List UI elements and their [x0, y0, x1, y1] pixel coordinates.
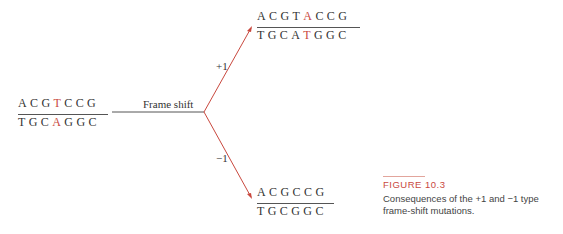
- base: G: [64, 115, 76, 130]
- base: C: [64, 96, 75, 111]
- base: T: [293, 9, 304, 24]
- base: G: [87, 96, 99, 111]
- base: C: [338, 28, 349, 43]
- mutated-base: A: [52, 115, 64, 130]
- base: C: [327, 9, 338, 24]
- base: C: [41, 115, 52, 130]
- base: C: [315, 204, 326, 219]
- figure-title: FIGURE 10.3: [383, 179, 446, 190]
- frame-shift-figure: ACGTCCG TGCAGGC Frame shift +1 −1 ACGTAC…: [0, 0, 563, 234]
- base: G: [280, 185, 292, 200]
- mutated-base: T: [54, 96, 65, 111]
- base: G: [41, 96, 53, 111]
- inserted-base: T: [303, 28, 314, 43]
- base: G: [29, 115, 41, 130]
- base: C: [269, 185, 280, 200]
- base: T: [18, 115, 29, 130]
- base: C: [269, 9, 280, 24]
- base: G: [268, 204, 280, 219]
- plus-one-bottom-strand: TGCATGGC: [257, 28, 350, 43]
- base: C: [293, 185, 304, 200]
- plus-one-top-strand: ACGTACCG: [257, 9, 350, 24]
- minus-one-top-strand: ACGCCG: [257, 185, 327, 200]
- base: T: [257, 28, 268, 43]
- plus-one-arrowhead-icon: [247, 26, 252, 32]
- base: G: [280, 9, 292, 24]
- figure-caption: Consequences of the +1 and −1 type frame…: [383, 193, 543, 217]
- caption-rule: [383, 176, 425, 177]
- base: G: [315, 185, 327, 200]
- base: G: [291, 204, 303, 219]
- original-bottom-strand: TGCAGGC: [18, 115, 100, 130]
- base: A: [18, 96, 30, 111]
- base: C: [88, 115, 99, 130]
- base: A: [291, 28, 303, 43]
- inserted-base: A: [303, 9, 315, 24]
- plus-one-label: +1: [216, 60, 228, 72]
- base: G: [76, 115, 88, 130]
- original-top-strand: ACGTCCG: [18, 96, 99, 111]
- base: C: [76, 96, 87, 111]
- minus-one-bottom-strand: TGCGGC: [257, 204, 327, 219]
- base: G: [338, 9, 350, 24]
- base: C: [304, 185, 315, 200]
- base: T: [257, 204, 268, 219]
- base: G: [326, 28, 338, 43]
- minus-one-arrowhead-icon: [247, 193, 252, 199]
- base: C: [315, 9, 326, 24]
- base: G: [314, 28, 326, 43]
- base: C: [30, 96, 41, 111]
- frame-shift-label: Frame shift: [143, 98, 193, 110]
- base: A: [257, 9, 269, 24]
- base: C: [280, 204, 291, 219]
- base: G: [268, 28, 280, 43]
- base: G: [303, 204, 315, 219]
- base: A: [257, 185, 269, 200]
- minus-one-label: −1: [216, 152, 228, 164]
- base: C: [280, 28, 291, 43]
